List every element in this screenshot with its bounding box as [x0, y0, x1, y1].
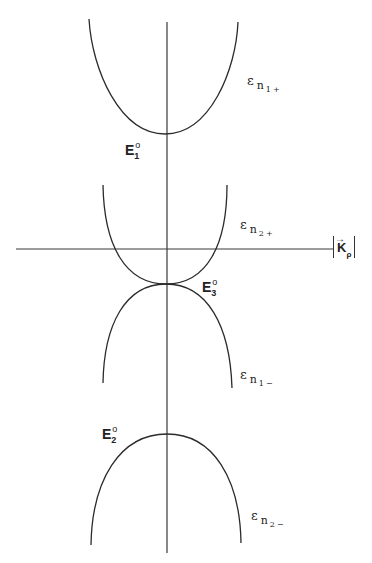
label-k-rho: →Kρ [333, 236, 355, 258]
label-index: 2 [259, 229, 266, 238]
curve-epsilon-n2-minus [91, 434, 241, 545]
label-sub: n [261, 514, 270, 527]
label-sub: n [250, 223, 259, 236]
label-main: E [202, 279, 211, 295]
label-main: ε [240, 217, 247, 232]
label-epsilon-n1-plus: εn1+ [247, 74, 282, 87]
label-index: 1 [134, 151, 139, 161]
label-index: 1 [266, 85, 273, 94]
label-epsilon-n1-minus: εn1− [240, 368, 275, 381]
label-sign: − [277, 520, 286, 529]
label-epsilon-n2-minus: εn2− [251, 509, 286, 522]
label-E2-zero: Eo2 [102, 427, 116, 441]
abs-bar-right [354, 236, 355, 258]
label-index: 1 [259, 379, 266, 388]
label-index: 2 [270, 520, 277, 529]
label-sub: ρ [346, 250, 351, 259]
label-sub: n [257, 79, 266, 92]
curve-epsilon-n2-plus [103, 185, 227, 284]
label-main: ε [247, 73, 254, 88]
curve-epsilon-n1-plus [89, 19, 238, 134]
label-sup: o [112, 424, 117, 434]
label-main: E [125, 142, 134, 158]
label-main: E [102, 426, 111, 442]
label-sup: o [212, 277, 217, 287]
label-E1-zero: Eo1 [125, 143, 139, 157]
label-sign: + [266, 229, 275, 238]
label-sub: n [250, 373, 259, 386]
label-E3-zero: Eo3 [202, 280, 216, 294]
label-epsilon-n2-plus: εn2+ [240, 218, 275, 231]
label-sign: + [273, 85, 282, 94]
label-main: ε [240, 367, 247, 382]
vector-arrow-icon: → [335, 234, 344, 244]
label-sup: o [135, 140, 140, 150]
band-diagram [0, 0, 372, 563]
label-index: 3 [211, 288, 216, 298]
label-index: 2 [111, 435, 116, 445]
label-sign: − [266, 379, 275, 388]
label-main: ε [251, 508, 258, 523]
